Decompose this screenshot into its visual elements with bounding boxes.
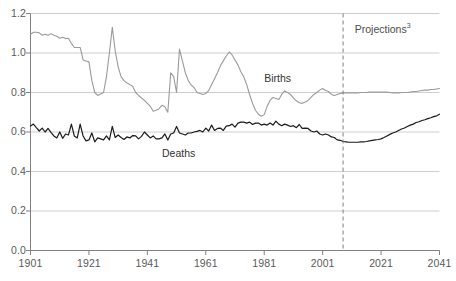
- deaths-label-text: Deaths: [162, 147, 195, 159]
- projections-footnote-marker: 3: [407, 22, 411, 29]
- y-tick-label: 0.0: [0, 244, 26, 256]
- x-tick-label: 2041: [417, 257, 456, 269]
- gridlines: [31, 14, 440, 212]
- x-tick-label: 1901: [8, 257, 54, 269]
- x-tick-label: 2001: [300, 257, 346, 269]
- x-tick-label: 2021: [358, 257, 404, 269]
- x-tick-label: 1941: [124, 257, 170, 269]
- y-tick-label: 0.8: [0, 86, 26, 98]
- y-tick-marks: [26, 14, 31, 251]
- y-tick-label: 0.4: [0, 165, 26, 177]
- series-line-births: [31, 27, 440, 116]
- x-tick-label: 1981: [241, 257, 287, 269]
- projections-text: Projections: [355, 23, 407, 35]
- y-tick-label: 1.2: [0, 7, 26, 19]
- y-tick-label: 1.0: [0, 46, 26, 58]
- y-tick-label: 0.6: [0, 125, 26, 137]
- births-series-label: Births: [264, 72, 291, 84]
- y-tick-label: 0.2: [0, 204, 26, 216]
- x-tick-label: 1921: [66, 257, 112, 269]
- births-label-text: Births: [264, 72, 291, 84]
- x-tick-label: 1961: [183, 257, 229, 269]
- series-lines: [31, 27, 440, 142]
- deaths-series-label: Deaths: [162, 147, 195, 159]
- series-line-deaths: [31, 114, 440, 142]
- projections-annotation: Projections3: [355, 22, 411, 35]
- x-tick-marks: [31, 251, 440, 256]
